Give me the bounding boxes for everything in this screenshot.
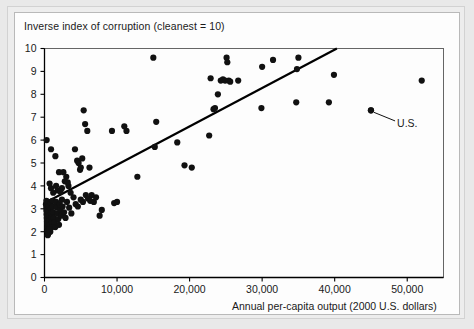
data-point: [270, 57, 276, 63]
data-point: [80, 199, 86, 205]
data-point: [235, 77, 241, 83]
data-point: [75, 203, 81, 209]
data-point: [70, 194, 76, 200]
data-point: [87, 198, 93, 204]
axes-layer: [41, 49, 444, 282]
data-point: [114, 199, 120, 205]
data-point: [206, 132, 212, 138]
data-point: [331, 72, 337, 78]
data-point: [258, 105, 264, 111]
y-tick-label: 7: [31, 111, 37, 123]
data-point: [109, 128, 115, 134]
y-tick-label: 1: [31, 248, 37, 260]
data-point: [57, 189, 63, 195]
data-points-layer: [43, 55, 425, 239]
data-point: [224, 59, 230, 65]
y-tick-label: 5: [31, 157, 37, 169]
annotated-data-point: [368, 107, 374, 113]
data-point: [259, 64, 265, 70]
data-point: [44, 137, 50, 143]
annotations-layer: U.S.: [368, 107, 418, 129]
data-point: [174, 139, 180, 145]
data-point: [295, 55, 301, 61]
y-tick-label: 10: [25, 42, 37, 54]
data-point: [72, 146, 78, 152]
data-point: [52, 153, 58, 159]
data-point: [46, 181, 52, 187]
x-tick-label: 0: [42, 283, 48, 295]
y-tick-label: 3: [31, 203, 37, 215]
data-point: [153, 119, 159, 125]
data-point: [152, 144, 158, 150]
data-point: [84, 128, 90, 134]
data-point: [293, 99, 299, 105]
data-point: [62, 215, 68, 221]
data-point: [61, 209, 67, 215]
figure-container: Inverse index of corruption (cleanest = …: [0, 0, 474, 329]
data-point: [79, 155, 85, 161]
data-point: [97, 213, 103, 219]
data-point: [56, 222, 62, 228]
data-point: [189, 164, 195, 170]
data-point: [78, 164, 84, 170]
data-point: [215, 91, 221, 97]
data-point: [150, 55, 156, 61]
plot-frame: [45, 49, 444, 278]
x-tick-label: 40,000: [319, 283, 351, 295]
data-point: [64, 199, 70, 205]
data-point: [63, 174, 69, 180]
data-point: [294, 66, 300, 72]
scatter-plot: 012345678910010,00020,00030,00040,00050,…: [0, 0, 474, 329]
data-point: [50, 190, 56, 196]
data-point: [123, 128, 129, 134]
data-point: [93, 194, 99, 200]
x-tick-label: 50,000: [391, 283, 423, 295]
trendline-path: [47, 49, 337, 202]
data-point: [46, 226, 52, 232]
data-point: [66, 205, 72, 211]
x-tick-label: 30,000: [246, 283, 278, 295]
trendline: [47, 49, 337, 202]
y-tick-label: 8: [31, 88, 37, 100]
data-point: [86, 164, 92, 170]
data-point: [181, 162, 187, 168]
y-tick-label: 6: [31, 134, 37, 146]
data-point: [68, 210, 74, 216]
data-point: [82, 121, 88, 127]
y-tick-label: 2: [31, 226, 37, 238]
data-point: [60, 203, 66, 209]
x-axis-title: Annual per-capita output (2000 U.S. doll…: [232, 300, 437, 312]
data-point: [419, 77, 425, 83]
data-point: [212, 105, 218, 111]
annotation-label: U.S.: [397, 117, 417, 129]
data-point: [326, 99, 332, 105]
annotation-leader-line: [374, 112, 395, 121]
x-tick-label: 10,000: [101, 283, 133, 295]
data-point: [208, 75, 214, 81]
data-point: [65, 179, 71, 185]
data-point: [99, 207, 105, 213]
data-point: [134, 174, 140, 180]
y-tick-label: 9: [31, 65, 37, 77]
data-point: [81, 107, 87, 113]
y-tick-label: 4: [31, 180, 37, 192]
x-tick-label: 20,000: [174, 283, 206, 295]
y-tick-label: 0: [31, 271, 37, 283]
data-point: [227, 79, 233, 85]
data-point: [48, 146, 54, 152]
